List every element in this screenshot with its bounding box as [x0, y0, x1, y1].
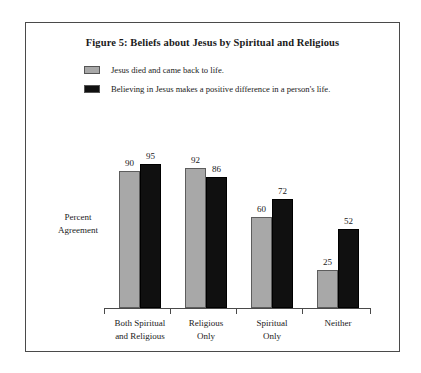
category-label-0-line0: Both Spiritual — [115, 318, 166, 328]
bar-value-label-light-2: 60 — [249, 204, 275, 214]
bar-light-2 — [251, 217, 272, 308]
bar-value-label-dark-3: 52 — [336, 216, 362, 226]
category-label-1-line0: Religious — [189, 318, 224, 328]
figure-frame: Figure 5: Beliefs about Jesus by Spiritu… — [25, 22, 400, 352]
category-label-1-line1: Only — [197, 331, 215, 341]
bar-value-label-dark-2: 72 — [270, 186, 296, 196]
bar-dark-0 — [140, 164, 161, 308]
category-label-2-line0: Spiritual — [257, 318, 288, 328]
x-axis-line — [104, 308, 371, 309]
category-label-3: Neither — [298, 317, 378, 330]
bar-light-0 — [119, 171, 140, 308]
plot-area: 9095Both Spiritualand Religious9286Relig… — [26, 23, 399, 351]
category-label-0-line1: and Religious — [115, 331, 165, 341]
bar-light-3 — [317, 270, 338, 308]
bar-value-label-dark-1: 86 — [204, 164, 230, 174]
bar-dark-3 — [338, 229, 359, 308]
bar-value-label-light-3: 25 — [315, 257, 341, 267]
bar-light-1 — [185, 168, 206, 308]
category-label-3-line0: Neither — [325, 318, 352, 328]
bar-dark-1 — [206, 177, 227, 308]
category-label-2-line1: Only — [263, 331, 281, 341]
bar-dark-2 — [272, 199, 293, 308]
bar-value-label-dark-0: 95 — [138, 151, 164, 161]
